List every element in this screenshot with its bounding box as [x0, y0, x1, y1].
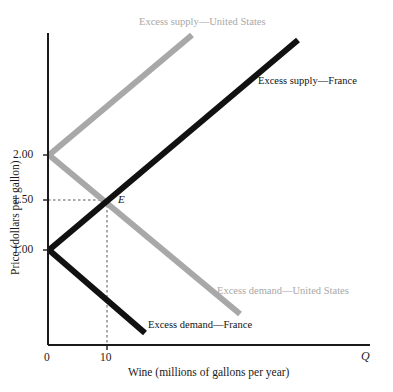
excess-supply-demand-chart: 2.00 1.50 1.00 0 10 Price (dollars per g… [0, 0, 393, 392]
x-axis-title: Wine (millions of gallons per year) [128, 367, 289, 379]
x-axis-letter-q: Q [361, 350, 370, 362]
equilibrium-point-label: E [118, 194, 125, 205]
label-excess-supply-france: Excess supply—France [258, 76, 357, 87]
y-axis-title: Price (dollars per gallon) [10, 160, 22, 275]
curve-excess-demand-france [49, 250, 145, 333]
chart-canvas [0, 0, 393, 392]
label-excess-demand-france: Excess demand—France [148, 320, 252, 331]
label-excess-supply-united-states: Excess supply—United States [139, 17, 266, 28]
curve-excess-supply-united-states [49, 35, 192, 155]
y-tick-label-200: 2.00 [13, 149, 33, 161]
x-tick-label-0: 0 [44, 352, 50, 364]
curve-excess-supply-france [49, 40, 298, 250]
label-excess-demand-united-states: Excess demand—United States [217, 286, 349, 297]
x-tick-label-10: 10 [100, 352, 112, 364]
curve-excess-demand-united-states [49, 155, 240, 314]
